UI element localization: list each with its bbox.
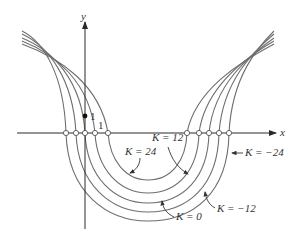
label-km12: K = −12 <box>205 192 256 214</box>
y-tick-label: 1 <box>90 110 96 122</box>
point-0-1 <box>83 114 88 119</box>
y-axis-label: y <box>80 10 86 22</box>
svg-text:K = 12: K = 12 <box>151 131 184 143</box>
label-k12: K = 12 <box>151 131 188 174</box>
level-curve-diagram: y x 1 1 K = 24 K = 12 K = 0 K = −12 K = … <box>0 0 298 241</box>
svg-text:K = −12: K = −12 <box>216 202 256 214</box>
level-curves <box>22 31 274 221</box>
svg-text:K = 24: K = 24 <box>124 145 157 157</box>
curve-k12 <box>22 41 274 193</box>
svg-text:K = 0: K = 0 <box>175 210 202 222</box>
curve-k24 <box>22 44 274 180</box>
x-tick-label: 1 <box>98 119 104 131</box>
label-k24: K = 24 <box>124 145 157 173</box>
curve-km12 <box>22 34 274 212</box>
x-axis-label: x <box>279 126 285 138</box>
svg-text:K = −24: K = −24 <box>244 146 284 158</box>
diagram-canvas: y x 1 1 K = 24 K = 12 K = 0 K = −12 K = … <box>0 0 298 241</box>
label-km24: K = −24 <box>232 146 284 158</box>
